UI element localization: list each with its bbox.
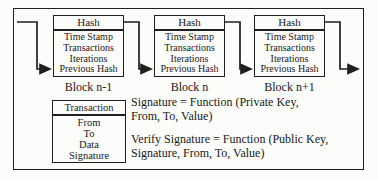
block-n-label: Block n (154, 80, 225, 95)
block-fields: Time Stamp Transactions Iterations Previ… (53, 30, 124, 77)
blockchain-diagram: Hash Time Stamp Transactions Iterations … (0, 0, 378, 180)
transaction-field-data: Data (79, 139, 99, 150)
block-field-transactions: Transactions (63, 43, 114, 54)
signature-formula-line2: From, To, Value) (131, 110, 359, 124)
block-n-minus-1: Hash Time Stamp Transactions Iterations … (53, 15, 124, 77)
verify-formula-line2: Signature, From, To, Value) (131, 147, 359, 161)
transaction-box: Transaction From To Data Signature (52, 100, 126, 163)
transaction-field-from: From (78, 117, 101, 128)
block-field-previous-hash: Previous Hash (59, 64, 117, 75)
block-hash-cell: Hash (53, 15, 124, 30)
block-n-plus-1: Hash Time Stamp Transactions Iterations … (254, 15, 325, 77)
block-field-previous-hash: Previous Hash (160, 64, 218, 75)
transaction-field-to: To (84, 128, 95, 139)
block-field-transactions: Transactions (264, 43, 315, 54)
block-n-minus-1-label: Block n-1 (53, 80, 124, 95)
verify-formula-line1: Verify Signature = Function (Public Key, (131, 133, 359, 147)
signature-formula-line1: Signature = Function (Private Key, (131, 96, 359, 110)
block-fields: Time Stamp Transactions Iterations Previ… (154, 30, 225, 77)
verify-signature-formula: Verify Signature = Function (Public Key,… (131, 133, 359, 160)
block-hash-cell: Hash (254, 15, 325, 30)
block-field-previous-hash: Previous Hash (260, 64, 318, 75)
signature-formula: Signature = Function (Private Key, From,… (131, 96, 359, 123)
block-hash-cell: Hash (154, 15, 225, 30)
transaction-fields: From To Data Signature (52, 115, 126, 163)
block-n: Hash Time Stamp Transactions Iterations … (154, 15, 225, 77)
block-field-transactions: Transactions (164, 43, 215, 54)
block-n-plus-1-label: Block n+1 (254, 80, 325, 95)
transaction-header-cell: Transaction (52, 100, 126, 115)
block-fields: Time Stamp Transactions Iterations Previ… (254, 30, 325, 77)
formula-text: Signature = Function (Private Key, From,… (131, 96, 359, 170)
transaction-field-signature: Signature (69, 150, 109, 161)
